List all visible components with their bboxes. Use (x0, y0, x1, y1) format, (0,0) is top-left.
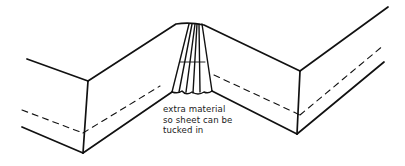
annotation-line-1: extra material (163, 104, 232, 115)
annotation-line-3: tucked in (163, 125, 232, 136)
annotation-label: extra material so sheet can be tucked in (163, 104, 232, 136)
left-block (22, 59, 88, 153)
sheet-fold-drawing (0, 0, 405, 166)
diagram-canvas: extra material so sheet can be tucked in (0, 0, 405, 166)
pleated-fold (172, 24, 212, 94)
right-block (297, 7, 388, 134)
annotation-line-2: so sheet can be (163, 115, 232, 126)
